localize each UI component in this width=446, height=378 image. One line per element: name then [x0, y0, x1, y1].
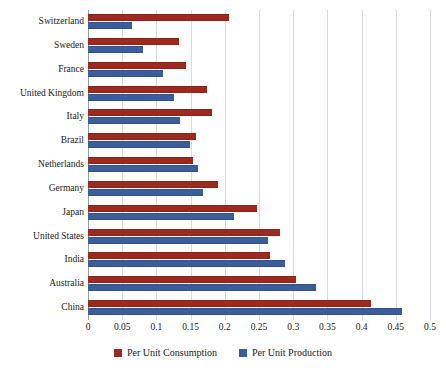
bar-consumption — [88, 14, 229, 21]
x-axis: 00.050.10.150.20.250.30.350.40.450.5 — [88, 320, 430, 336]
x-tick-label: 0.45 — [387, 320, 404, 334]
category-label: India — [0, 248, 84, 272]
category-label: Sweden — [0, 34, 84, 58]
bar-production — [88, 165, 198, 172]
bar-production — [88, 189, 203, 196]
bar-consumption — [88, 252, 270, 259]
x-tick-label: 0.05 — [114, 320, 131, 334]
bar-group — [88, 201, 430, 225]
bar-production — [88, 46, 143, 53]
bar-chart: 00.050.10.150.20.250.30.350.40.450.5 Per… — [0, 0, 446, 378]
legend-item[interactable]: Per Unit Consumption — [114, 347, 217, 359]
bar-group — [88, 58, 430, 82]
legend-swatch-icon — [239, 349, 247, 357]
bar-consumption — [88, 181, 218, 188]
category-label: France — [0, 58, 84, 82]
bar-consumption — [88, 205, 257, 212]
category-label: Italy — [0, 105, 84, 129]
bar-production — [88, 141, 190, 148]
bar-group — [88, 296, 430, 320]
bar-consumption — [88, 276, 296, 283]
bar-consumption — [88, 62, 186, 69]
bar-consumption — [88, 229, 280, 236]
chart-legend: Per Unit ConsumptionPer Unit Production — [0, 347, 446, 359]
category-label: United Kingdom — [0, 82, 84, 106]
bar-production — [88, 237, 268, 244]
legend-label: Per Unit Production — [252, 347, 332, 359]
x-tick-label: 0.4 — [356, 320, 368, 334]
bar-production — [88, 213, 234, 220]
bar-consumption — [88, 133, 196, 140]
x-tick-label: 0.3 — [287, 320, 299, 334]
x-tick-label: 0.35 — [319, 320, 336, 334]
bar-group — [88, 34, 430, 58]
bar-consumption — [88, 157, 193, 164]
bar-production — [88, 308, 402, 315]
legend-swatch-icon — [114, 349, 122, 357]
category-label: China — [0, 296, 84, 320]
category-label: Germany — [0, 177, 84, 201]
bar-group — [88, 82, 430, 106]
bar-consumption — [88, 300, 371, 307]
bar-group — [88, 10, 430, 34]
x-tick-label: 0 — [86, 320, 91, 334]
legend-label: Per Unit Consumption — [127, 347, 217, 359]
x-tick-label: 0.1 — [150, 320, 162, 334]
bar-group — [88, 272, 430, 296]
category-label: Australia — [0, 272, 84, 296]
bar-consumption — [88, 109, 212, 116]
bar-consumption — [88, 86, 207, 93]
category-label: Japan — [0, 201, 84, 225]
x-tick-label: 0.5 — [424, 320, 436, 334]
x-tick-label: 0.2 — [219, 320, 231, 334]
category-label: Netherlands — [0, 153, 84, 177]
bar-group — [88, 177, 430, 201]
x-tick-label: 0.25 — [251, 320, 268, 334]
legend-item[interactable]: Per Unit Production — [239, 347, 332, 359]
bar-consumption — [88, 38, 179, 45]
bar-production — [88, 22, 132, 29]
bar-group — [88, 105, 430, 129]
category-label: United States — [0, 225, 84, 249]
bar-production — [88, 284, 316, 291]
bar-group — [88, 248, 430, 272]
category-label: Switzerland — [0, 10, 84, 34]
bar-production — [88, 260, 285, 267]
gridline-0.5 — [430, 10, 431, 320]
bar-production — [88, 117, 180, 124]
bar-production — [88, 70, 163, 77]
plot-area — [88, 10, 430, 320]
category-label: Brazil — [0, 129, 84, 153]
bar-group — [88, 129, 430, 153]
x-tick-label: 0.15 — [182, 320, 199, 334]
bar-group — [88, 225, 430, 249]
bar-group — [88, 153, 430, 177]
bar-production — [88, 94, 174, 101]
